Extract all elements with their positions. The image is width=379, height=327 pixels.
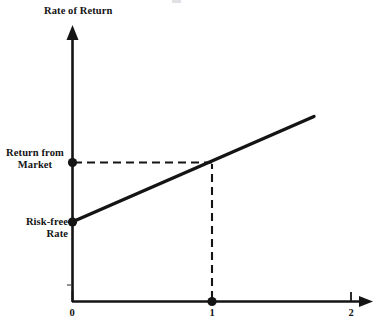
riskfree-rate-point <box>68 217 77 226</box>
market-return-label: Return from Market <box>2 147 68 171</box>
x-tick-label-2: 2 <box>343 307 359 318</box>
security-market-line <box>72 117 314 223</box>
risk-free-rate-label: Risk-free Rate <box>2 216 68 240</box>
y-axis-title: Rate of Return <box>44 5 112 17</box>
x-tick-label-0: 0 <box>64 307 80 318</box>
y-axis-arrowhead <box>67 25 79 40</box>
market-return-point <box>68 158 77 167</box>
market-beta-point <box>207 297 216 306</box>
security-market-line-figure: Rate of Return Return from Market Risk-f… <box>0 0 379 327</box>
x-tick-label-1: 1 <box>204 307 220 318</box>
x-axis-arrowhead <box>359 296 373 307</box>
